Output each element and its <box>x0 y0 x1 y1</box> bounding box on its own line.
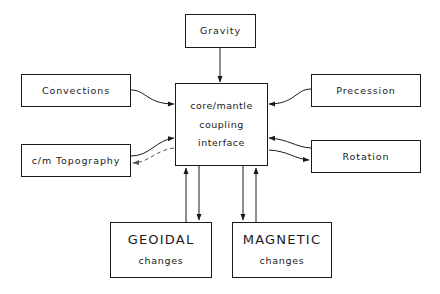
node-core-mantle-coupling-interface[interactable]: core/mantle coupling interface <box>175 83 268 166</box>
node-precession[interactable]: Precession <box>311 74 421 107</box>
node-precession-label: Precession <box>336 85 396 97</box>
edge-convections-to-center <box>131 90 174 104</box>
edge-center-to-topography <box>133 148 174 163</box>
node-gravity[interactable]: Gravity <box>185 14 256 48</box>
edge-topography-to-center <box>131 138 174 156</box>
node-rotation[interactable]: Rotation <box>311 140 421 173</box>
node-topography[interactable]: c/m Topography <box>21 144 131 177</box>
center-line-3: interface <box>198 137 245 149</box>
node-magnetic-subtitle: changes <box>260 256 305 266</box>
node-magnetic-changes[interactable]: MAGNETIC changes <box>232 222 332 278</box>
diagram-canvas: Gravity Convections c/m Topography Prece… <box>0 0 440 294</box>
node-geoidal-changes[interactable]: GEOIDAL changes <box>110 222 212 278</box>
node-topography-label: c/m Topography <box>32 155 121 167</box>
node-geoidal-subtitle: changes <box>139 256 184 266</box>
edge-rotation-to-center <box>269 138 311 148</box>
edge-center-to-rotation <box>269 150 309 160</box>
center-line-2: coupling <box>199 119 243 131</box>
node-geoidal-title: GEOIDAL <box>128 233 195 247</box>
edge-precession-to-center <box>269 89 311 104</box>
center-line-1: core/mantle <box>190 100 253 112</box>
node-convections-label: Convections <box>42 85 110 97</box>
node-convections[interactable]: Convections <box>21 74 131 107</box>
node-rotation-label: Rotation <box>343 151 390 163</box>
node-gravity-label: Gravity <box>200 25 241 37</box>
node-magnetic-title: MAGNETIC <box>243 233 321 247</box>
